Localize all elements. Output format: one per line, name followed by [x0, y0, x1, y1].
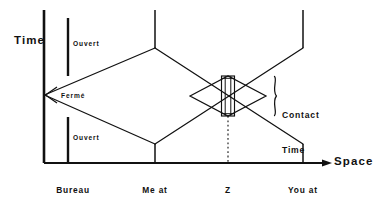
ouvert-lower-label: Ouvert	[73, 134, 100, 141]
tick-point-z-line1: Z	[222, 186, 235, 195]
tick-label-point-z: Z	[222, 167, 235, 200]
tick-you-at-y-line1: You at	[288, 186, 318, 195]
ferme-label: Fermé	[61, 92, 85, 99]
lower-left-diagonal	[45, 95, 156, 144]
tick-post-office-line1: Bureau	[52, 186, 93, 195]
spacetime-diagram-figure: Time Space Ouvert Ouvert Fermé Bureau de…	[0, 0, 384, 200]
tick-label-post-office: Bureau de Poste	[52, 167, 93, 200]
observer-worldlines	[155, 10, 303, 163]
time-axis-label: Time	[14, 34, 45, 47]
tick-me-at-x-line1: Me at	[142, 186, 167, 195]
tick-label-me-at-x: Me at X	[142, 167, 167, 200]
ferme-arrow-glyph	[46, 87, 58, 103]
contact-time-line1: Contact	[282, 110, 320, 122]
space-axis-arrowhead	[322, 159, 332, 166]
contact-time-bracket	[274, 77, 276, 116]
upper-left-diagonal	[45, 48, 156, 95]
contact-time-label: Contact Time	[282, 87, 320, 180]
contact-time-line2: Time	[282, 145, 320, 157]
contact-time-brace-glyph	[274, 77, 276, 116]
space-axis-label: Space	[334, 155, 373, 168]
ouvert-upper-label: Ouvert	[73, 40, 100, 47]
ferme-apex-marker	[46, 87, 58, 103]
